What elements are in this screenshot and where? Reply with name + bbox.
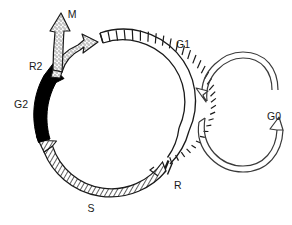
label-r: R (174, 179, 182, 191)
cell-cycle-diagram: M G1 G2 G0 S R R2 (0, 0, 292, 225)
label-r2: R2 (29, 60, 43, 72)
phase-m-arrow (50, 13, 98, 78)
label-g0: G0 (267, 110, 281, 122)
m-branch-up (50, 13, 70, 72)
g0-upper-arc (207, 58, 272, 101)
g0-lower-arc (204, 118, 277, 166)
label-g2: G2 (14, 98, 28, 110)
label-m: M (68, 8, 77, 20)
m-stem (51, 70, 62, 78)
cell-cycle-canvas: M G1 G2 G0 S R R2 (0, 0, 292, 225)
g2-black-band (34, 76, 56, 143)
g1-inner-edge-lower (168, 128, 180, 158)
phase-g1-arc (100, 29, 216, 164)
g1-inner-edge (103, 40, 185, 128)
label-s: S (87, 202, 94, 214)
g1-start-cap (100, 33, 103, 43)
phase-s-arc (37, 137, 167, 197)
s-hatched-band (44, 146, 166, 197)
label-g1: G1 (176, 38, 190, 50)
